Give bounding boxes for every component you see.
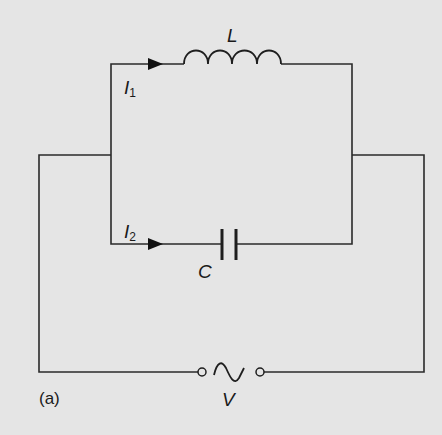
source-label: V xyxy=(222,390,235,409)
circuit-drawing xyxy=(0,0,442,435)
circuit-diagram: L I1 I2 C V (a) xyxy=(0,0,442,435)
inductor-label: L xyxy=(227,26,238,45)
capacitor-label: C xyxy=(198,262,212,281)
terminal-right-icon xyxy=(256,368,264,376)
source-loop xyxy=(39,155,424,381)
figure-caption: (a) xyxy=(39,390,60,407)
terminal-left-icon xyxy=(198,368,206,376)
inductor-coil-icon xyxy=(184,51,281,65)
current-subscript: 1 xyxy=(129,86,136,100)
capacitor-branch xyxy=(111,155,352,260)
inductor-branch xyxy=(111,51,352,156)
current-label-i2: I2 xyxy=(124,222,136,243)
current-arrow-i2-icon xyxy=(148,238,163,250)
current-label-i1: I1 xyxy=(124,78,136,99)
ac-sine-icon xyxy=(214,363,244,381)
current-arrow-i1-icon xyxy=(148,58,163,70)
current-subscript: 2 xyxy=(129,230,136,244)
